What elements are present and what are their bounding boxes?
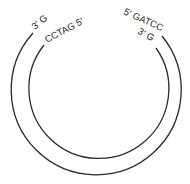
- plasmid-diagram: 3′ G CCTAG 5′ 5′ GATCC 3′ G: [0, 0, 190, 184]
- outer-strand: [11, 33, 181, 175]
- label-left-inner: CCTAG 5′: [43, 15, 86, 45]
- label-left-outer: 3′ G: [29, 12, 49, 31]
- inner-strand: [29, 45, 169, 158]
